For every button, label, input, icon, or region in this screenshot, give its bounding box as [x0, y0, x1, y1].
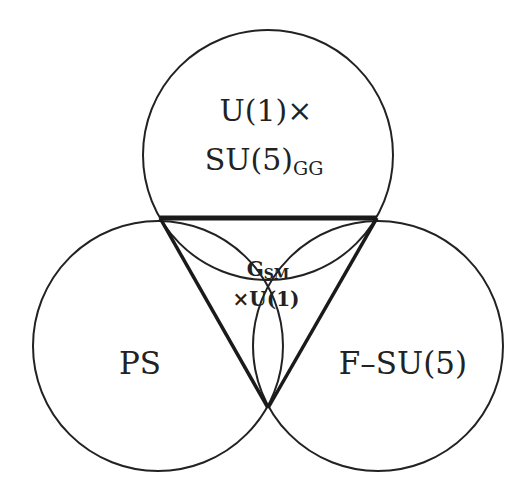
- center-label-subscript: SM: [264, 266, 290, 282]
- center-label-line2: ×U(1): [232, 287, 299, 311]
- label-right-set: F–SU(5): [339, 345, 467, 381]
- center-label-main: G: [247, 257, 264, 281]
- top-label-subscript: GG: [293, 157, 323, 179]
- left-label: PS: [119, 345, 161, 381]
- top-label-line2: SU(5)GG: [205, 142, 324, 179]
- top-label-line1: U(1)×: [220, 93, 313, 128]
- top-label-main: SU(5): [205, 142, 293, 177]
- venn-diagram: U(1)× SU(5)GG PS F–SU(5) GSM ×U(1): [0, 0, 528, 502]
- center-label-line1: GSM: [247, 257, 290, 282]
- right-label: F–SU(5): [339, 345, 467, 381]
- label-top-set: U(1)× SU(5)GG: [205, 93, 324, 179]
- label-left-set: PS: [119, 345, 161, 381]
- triangle-left-edge: [160, 218, 268, 408]
